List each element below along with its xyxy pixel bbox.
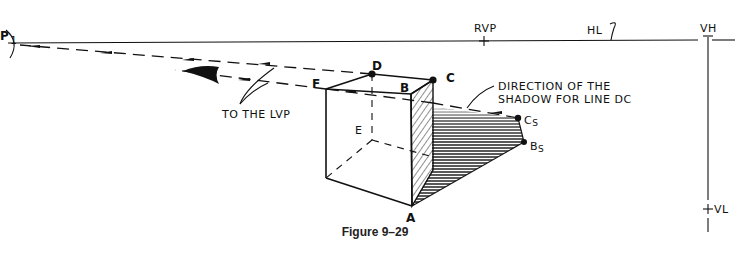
p-label: P [0, 29, 9, 43]
label-a: A [406, 211, 416, 225]
rvp-marker: RVP [474, 22, 497, 46]
label-b: B [400, 81, 409, 95]
rvp-label: RVP [474, 22, 497, 35]
vh-label: VH [700, 22, 717, 35]
direction-arrow-icon [183, 66, 219, 84]
hl-marker: HL [587, 23, 615, 40]
figure-caption: Figure 9–29 [342, 225, 409, 239]
direction-leader [467, 86, 494, 108]
label-d: D [372, 59, 382, 73]
point-c [429, 76, 436, 83]
point-bs [521, 139, 527, 145]
label-bs: BS [530, 140, 544, 154]
to-lvp-leader [240, 68, 274, 104]
vanishing-trace: VH VL [700, 22, 729, 232]
perspective-shadow-diagram: P 1 RVP HL VH VL [0, 0, 750, 253]
to-lvp-label: TO THE LVP [221, 108, 290, 121]
label-cs: CS [524, 114, 538, 128]
label-f: F [312, 77, 320, 91]
p-subscript: 1 [10, 34, 18, 47]
horizon-line [8, 40, 735, 43]
label-e: E [355, 124, 362, 137]
direction-label-line2: SHADOW FOR LINE DC [498, 93, 632, 106]
label-c: C [446, 71, 455, 85]
point-cs [515, 115, 521, 121]
vl-label: VL [714, 203, 729, 216]
direction-label-line1: DIRECTION OF THE [498, 80, 611, 93]
hl-label: HL [587, 24, 603, 37]
